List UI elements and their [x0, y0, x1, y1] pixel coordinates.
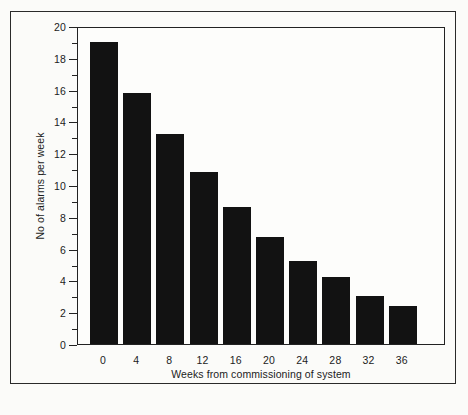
y-axis-tick-label: 16: [54, 85, 66, 97]
bar: [156, 134, 184, 344]
y-axis-tick-major: [69, 27, 77, 28]
y-axis-tick-label: 14: [54, 116, 66, 128]
x-axis-tick-label: 4: [133, 354, 139, 366]
bar: [123, 93, 151, 344]
y-axis-tick-major: [69, 186, 77, 187]
y-axis: 02468101214161820: [0, 27, 77, 345]
bar-series: [78, 28, 444, 344]
bar: [356, 296, 384, 344]
plot-area: [77, 27, 445, 345]
y-axis-tick-label: 8: [60, 212, 66, 224]
bar: [256, 237, 284, 344]
x-axis-tick-label: 12: [197, 354, 209, 366]
y-axis-tick-label: 0: [60, 339, 66, 351]
bar: [322, 277, 350, 344]
y-axis-tick-major: [69, 91, 77, 92]
y-axis-tick-major: [69, 59, 77, 60]
x-axis-tick-label: 36: [396, 354, 408, 366]
x-axis-tick-label: 20: [263, 354, 275, 366]
y-axis-tick-major: [69, 345, 77, 346]
x-axis-tick-label: 0: [100, 354, 106, 366]
y-axis-tick-label: 18: [54, 53, 66, 65]
y-axis-tick-major: [69, 250, 77, 251]
bar: [389, 306, 417, 344]
y-axis-tick-major: [69, 313, 77, 314]
y-axis-tick-major: [69, 218, 77, 219]
y-axis-tick-label: 12: [54, 148, 66, 160]
bar: [223, 207, 251, 344]
bar: [190, 172, 218, 344]
y-axis-tick-label: 20: [54, 21, 66, 33]
y-axis-tick-major: [69, 122, 77, 123]
figure-canvas: No of alarms per week 02468101214161820 …: [0, 0, 468, 415]
y-axis-tick-label: 6: [60, 244, 66, 256]
x-axis-tick-label: 16: [230, 354, 242, 366]
bar: [289, 261, 317, 344]
y-axis-tick-major: [69, 154, 77, 155]
y-axis-tick-label: 10: [54, 180, 66, 192]
x-axis-tick-label: 8: [166, 354, 172, 366]
x-axis-tick-label: 24: [296, 354, 308, 366]
bar: [90, 42, 118, 344]
x-axis-tick-label: 32: [363, 354, 375, 366]
x-axis-title: Weeks from commissioning of system: [77, 368, 445, 380]
y-axis-tick-label: 2: [60, 307, 66, 319]
y-axis-tick-major: [69, 281, 77, 282]
x-axis-tick-label: 28: [329, 354, 341, 366]
y-axis-tick-label: 4: [60, 275, 66, 287]
